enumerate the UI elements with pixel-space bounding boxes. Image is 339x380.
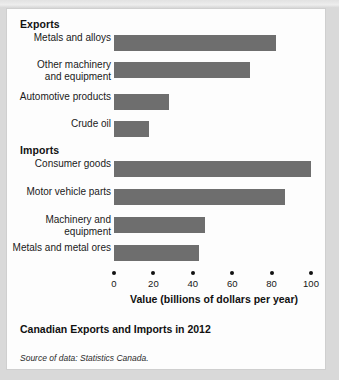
bar-category-label: Motor vehicle parts	[0, 186, 111, 198]
axis-tick-dot	[230, 271, 234, 275]
bar-category-label-line: Motor vehicle parts	[0, 186, 111, 198]
bar-category-label-line: Machinery and	[0, 214, 111, 226]
bar	[114, 62, 250, 78]
axis-tick-dot	[112, 271, 116, 275]
bar-category-label-line: and equipment	[0, 71, 111, 83]
axis-tick-dot	[151, 271, 155, 275]
axis-title: Value (billions of dollars per year)	[130, 293, 298, 305]
cropped-text-sliver	[0, 0, 339, 8]
bar-category-label-line: Metals and alloys	[0, 32, 111, 44]
bar	[114, 35, 276, 51]
axis-tick-label: 0	[111, 278, 116, 289]
axis-tick-dot	[270, 271, 274, 275]
bar-category-label: Metals and alloys	[0, 32, 111, 44]
bar-category-label: Automotive products	[0, 91, 111, 103]
bar	[114, 189, 285, 205]
axis-tick-label: 40	[188, 278, 199, 289]
section-heading-imports: Imports	[20, 144, 59, 156]
bar-category-label: Machinery andequipment	[0, 214, 111, 237]
axis-tick-label: 20	[148, 278, 159, 289]
bar	[114, 245, 199, 261]
bar	[114, 94, 169, 110]
bar-category-label-line: Metals and metal ores	[0, 242, 111, 254]
bar	[114, 161, 311, 177]
bar-category-label-line: equipment	[0, 226, 111, 238]
bar-category-label-line: Automotive products	[0, 91, 111, 103]
bar-category-label: Consumer goods	[0, 158, 111, 170]
section-heading-exports: Exports	[20, 18, 60, 30]
source-note: Source of data: Statistics Canada.	[20, 353, 149, 363]
bar-category-label: Other machineryand equipment	[0, 59, 111, 82]
bar-category-label: Metals and metal ores	[0, 242, 111, 254]
axis-tick-dot	[191, 271, 195, 275]
axis-tick-label: 80	[266, 278, 277, 289]
axis-tick-dot	[309, 271, 313, 275]
axis-tick-label: 100	[303, 278, 319, 289]
source-value: Statistics Canada.	[80, 353, 149, 363]
bar-category-label-line: Consumer goods	[0, 158, 111, 170]
bar	[114, 217, 205, 233]
figure-caption: Canadian Exports and Imports in 2012	[20, 323, 211, 335]
bar-category-label: Crude oil	[0, 118, 111, 130]
x-axis: 020406080100 Value (billions of dollars …	[114, 271, 314, 311]
bar	[114, 121, 149, 137]
bar-category-label-line: Other machinery	[0, 59, 111, 71]
bar-category-label-line: Crude oil	[0, 118, 111, 130]
source-label: Source of data:	[20, 353, 78, 363]
figure-panel: Exports Imports Metals and alloysOther m…	[7, 9, 325, 369]
axis-tick-label: 60	[227, 278, 238, 289]
